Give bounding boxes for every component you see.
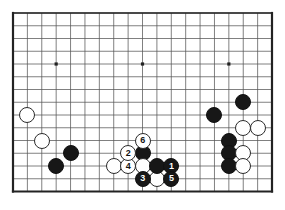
star-point — [227, 62, 230, 65]
move-stone-3: 3 — [135, 171, 151, 187]
move-number-label: 4 — [126, 161, 131, 170]
move-number-label: 3 — [140, 174, 145, 183]
move-number-label: 6 — [140, 136, 145, 145]
move-number-label: 2 — [126, 149, 131, 158]
go-board-diagram: 426315 — [0, 0, 285, 210]
star-point — [55, 62, 58, 65]
white-stone — [34, 133, 50, 149]
move-number-label: 5 — [169, 174, 174, 183]
black-stone — [63, 145, 79, 161]
move-number-label: 1 — [169, 161, 174, 170]
move-stone-5: 5 — [163, 171, 179, 187]
move-stone-6: 6 — [135, 133, 151, 149]
white-stone — [250, 120, 266, 136]
white-stone — [235, 120, 251, 136]
star-point — [141, 62, 144, 65]
